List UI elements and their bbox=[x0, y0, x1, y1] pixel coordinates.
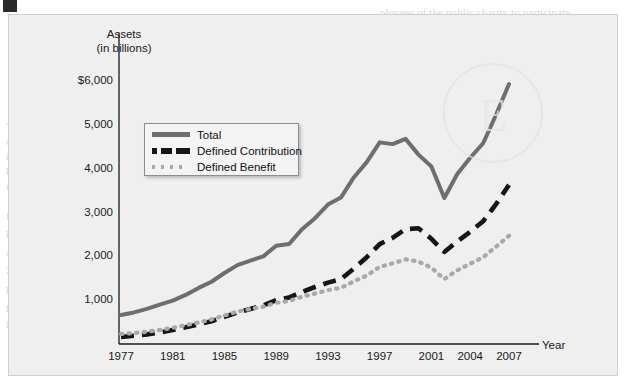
legend-item-defined-benefit: Defined Benefit bbox=[152, 159, 276, 174]
y-axis-tick-label: 4,000 bbox=[61, 162, 113, 174]
y-axis-tick-label: 2,000 bbox=[61, 249, 113, 261]
publisher-watermark: E bbox=[443, 63, 543, 163]
legend-item-total: Total bbox=[152, 127, 221, 142]
y-axis-tick-label: $6,000 bbox=[61, 74, 113, 86]
x-axis-tick-label: 1993 bbox=[306, 350, 350, 362]
chart-svg bbox=[9, 15, 619, 377]
x-axis-tick-label: 1981 bbox=[151, 350, 195, 362]
legend-label-defined-contribution: Defined Contribution bbox=[197, 145, 302, 157]
y-axis-tick-label: 3,000 bbox=[61, 206, 113, 218]
x-axis-tick-label: 1985 bbox=[202, 350, 246, 362]
solid-line-swatch bbox=[152, 132, 190, 137]
x-axis-tick-label: 2001 bbox=[409, 350, 453, 362]
figure-panel: E Assets (in billions) Year $6,0005,0004… bbox=[8, 14, 618, 376]
watermark-letter: E bbox=[445, 89, 541, 142]
legend-item-defined-contribution: Defined Contribution bbox=[152, 143, 302, 158]
legend-label-total: Total bbox=[197, 129, 221, 141]
y-axis-tick-label: 5,000 bbox=[61, 118, 113, 130]
x-axis-tick-label: 2007 bbox=[487, 350, 531, 362]
legend-label-defined-benefit: Defined Benefit bbox=[197, 161, 276, 173]
figure-corner-mark bbox=[3, 0, 17, 12]
x-axis-tick-label: 1977 bbox=[99, 350, 143, 362]
y-axis-tick-label: 1,000 bbox=[61, 293, 113, 305]
x-axis-tick-label: 1989 bbox=[254, 350, 298, 362]
x-axis-tick-label: 2004 bbox=[448, 350, 492, 362]
chart-legend: Total Defined Contribution Defined Benef… bbox=[144, 123, 299, 176]
series-line-defined-contribution bbox=[121, 185, 509, 337]
dashed-line-swatch bbox=[152, 148, 190, 154]
chart-plot-area: E Assets (in billions) Year $6,0005,0004… bbox=[9, 15, 617, 375]
dotted-line-swatch bbox=[152, 165, 190, 169]
x-axis-tick-label: 1997 bbox=[358, 350, 402, 362]
